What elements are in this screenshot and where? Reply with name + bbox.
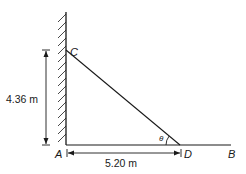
wall-hatching bbox=[58, 14, 66, 142]
height-arrow-bottom bbox=[44, 138, 49, 144]
angle-theta-label: θ bbox=[159, 134, 164, 143]
point-c-label: C bbox=[70, 46, 78, 58]
height-arrow-top bbox=[44, 51, 49, 57]
ladder-line bbox=[66, 50, 180, 145]
ladder-wall-diagram: C A D B θ 4.36 m 5.20 m bbox=[0, 0, 246, 174]
base-dimension bbox=[67, 149, 181, 157]
height-dimension bbox=[42, 50, 50, 145]
point-d-label: D bbox=[184, 148, 192, 160]
point-b-label: B bbox=[228, 148, 235, 160]
angle-arc bbox=[166, 136, 169, 145]
base-arrow-right bbox=[174, 151, 180, 156]
point-a-label: A bbox=[54, 148, 62, 160]
base-label: 5.20 m bbox=[105, 157, 137, 169]
height-label: 4.36 m bbox=[6, 93, 38, 105]
base-arrow-left bbox=[68, 151, 74, 156]
